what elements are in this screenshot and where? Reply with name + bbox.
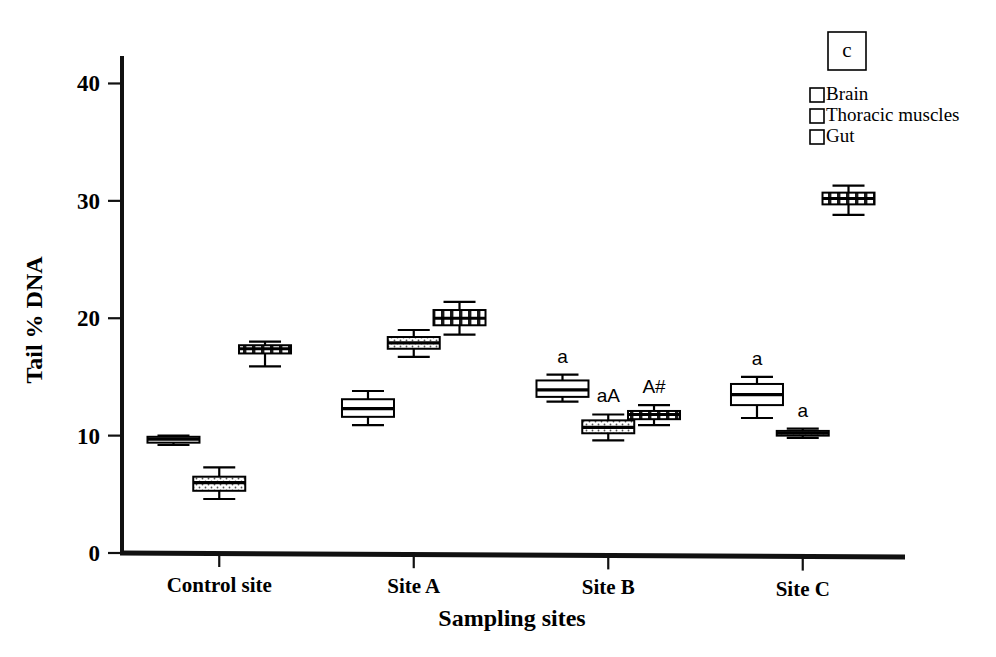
box-plot-item xyxy=(388,330,440,357)
box-plot-item xyxy=(731,377,783,418)
x-axis-ticks: Control siteSite ASite BSite C xyxy=(167,554,830,601)
panel-label-text: c xyxy=(842,38,851,62)
box-plot-item xyxy=(193,467,245,499)
box-annotation: aA xyxy=(597,385,621,406)
box-plot-item xyxy=(239,342,291,367)
box-plot-item xyxy=(628,405,680,425)
legend-label-thoracic-muscles: Thoracic muscles xyxy=(826,104,959,125)
y-tick-label: 40 xyxy=(77,71,100,96)
panel-label-group: c xyxy=(828,32,866,70)
box-annotation: a xyxy=(797,400,808,421)
box-plot-item xyxy=(536,375,588,402)
y-tick-label: 10 xyxy=(77,424,100,449)
box-plot-item xyxy=(823,186,875,215)
y-axis-ticks: 010203040 xyxy=(77,71,122,566)
x-tick-label: Site C xyxy=(776,577,830,601)
x-tick-label: Site B xyxy=(582,575,635,599)
box-plot-svg: 010203040 Control siteSite ASite BSite C… xyxy=(0,0,996,657)
boxes-layer xyxy=(147,186,874,499)
box-plot-item xyxy=(342,391,394,425)
box-plot-figure: 010203040 Control siteSite ASite BSite C… xyxy=(0,0,996,657)
legend: BrainThoracic musclesGut xyxy=(810,83,959,146)
legend-swatch-brain xyxy=(810,88,824,102)
box-annotation: a xyxy=(557,346,568,367)
y-tick-label: 30 xyxy=(77,189,100,214)
legend-label-brain: Brain xyxy=(826,83,869,104)
y-tick-label: 0 xyxy=(89,541,101,566)
legend-swatch-thoracic-muscles xyxy=(810,109,824,123)
x-axis-title: Sampling sites xyxy=(438,605,585,631)
box-annotation: a xyxy=(752,348,763,369)
box-plot-item xyxy=(777,429,829,438)
box-plot-item xyxy=(582,414,634,440)
box-plot-item xyxy=(434,302,486,335)
y-tick-label: 20 xyxy=(77,306,100,331)
box-plot-item xyxy=(147,436,199,445)
box-annotation: A# xyxy=(642,376,666,397)
x-tick-label: Control site xyxy=(167,573,272,597)
x-tick-label: Site A xyxy=(387,574,441,598)
y-axis-title: Tail % DNA xyxy=(21,256,47,384)
legend-swatch-gut xyxy=(810,130,824,144)
x-axis-line xyxy=(120,553,905,557)
legend-label-gut: Gut xyxy=(826,125,855,146)
